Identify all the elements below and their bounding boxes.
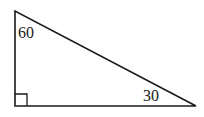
- triangle-figure: [0, 0, 204, 117]
- angle-label-top: 60: [18, 25, 34, 41]
- angle-label-right: 30: [143, 88, 159, 104]
- right-triangle-diagram: 60 30: [0, 0, 204, 117]
- triangle-outline: [15, 11, 196, 106]
- right-angle-marker: [15, 94, 27, 106]
